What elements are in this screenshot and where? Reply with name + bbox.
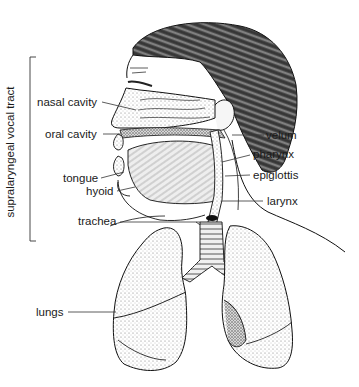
lungs-label: lungs <box>36 306 64 319</box>
vocal-tract-illustration <box>0 0 359 387</box>
left-lung <box>113 228 186 371</box>
bracket <box>30 57 36 241</box>
right-lung <box>222 226 292 369</box>
trachea-label: trachea <box>78 215 116 228</box>
pharynx-label: pharynx <box>253 148 294 161</box>
supralaryngeal-vocal-tract-label: supralaryngeal vocal tract <box>4 52 16 252</box>
hyoid-label: hyoid <box>86 185 114 198</box>
epiglottis-label: epiglottis <box>253 169 298 182</box>
tongue-label: tongue <box>63 172 98 185</box>
nasal-cavity-label: nasal cavity <box>37 96 97 109</box>
oral-cavity-label: oral cavity <box>45 128 97 141</box>
tongue-shape <box>128 141 222 204</box>
velum-label: velum <box>266 129 297 142</box>
larynx-label: larynx <box>267 195 298 208</box>
